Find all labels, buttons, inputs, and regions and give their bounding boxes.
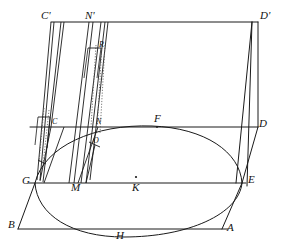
left-prism-bundle [37, 22, 64, 183]
label-M: M [71, 182, 80, 193]
label-K: K [132, 182, 139, 193]
upper-ellipse-arc [35, 126, 242, 183]
segment-left-slant [18, 183, 35, 229]
geometry-figure: C' N' D' R C N F D O G M K E B H A [0, 0, 281, 250]
label-D-prime: D' [260, 10, 270, 21]
edge-cprime-left [37, 22, 51, 180]
small-boxes [35, 48, 101, 148]
edge-c-drop-2 [44, 127, 64, 183]
label-C-prime: C' [41, 10, 51, 21]
box-mid-vert-a [84, 48, 88, 78]
label-C: C [52, 118, 57, 126]
edge-nprime-b [74, 22, 93, 183]
edge-nprime-c [81, 22, 101, 183]
center-dot-K [135, 176, 137, 178]
figure-canvas [0, 0, 281, 250]
edge-c-drop [40, 127, 51, 181]
edge-nprime-a [69, 22, 89, 183]
box-left-vert-a [35, 117, 38, 145]
label-E: E [248, 174, 255, 185]
label-H: H [116, 230, 124, 241]
label-F: F [154, 113, 161, 124]
label-B: B [8, 219, 15, 230]
label-A: A [227, 222, 234, 233]
label-D: D [259, 118, 267, 129]
label-O: O [93, 137, 99, 145]
label-N-prime: N' [85, 10, 95, 21]
vertex-dot-F [156, 126, 158, 128]
label-R: R [99, 41, 104, 49]
label-G: G [22, 175, 30, 186]
label-N: N [96, 118, 101, 126]
